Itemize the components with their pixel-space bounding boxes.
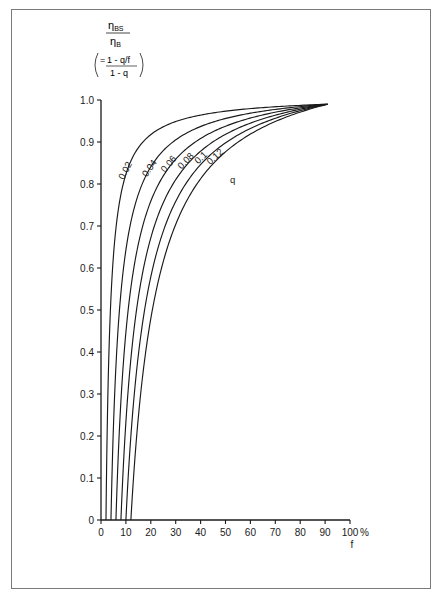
x-tick-label: 100 [342, 527, 359, 538]
y-tick-label: 0.5 [80, 305, 94, 316]
y-label-denominator: ηB [110, 35, 121, 48]
x-tick-label: 20 [145, 527, 157, 538]
x-tick-label: 70 [270, 527, 282, 538]
y-label-equals: = [100, 55, 105, 65]
y-label-numerator: ηBS [108, 19, 124, 32]
curve-label-q-0.04: 0.04 [139, 157, 159, 178]
x-tick-label: 80 [295, 527, 307, 538]
x-tick-label: 90 [320, 527, 332, 538]
x-tick-label: 30 [170, 527, 182, 538]
curve-label-q-0.12: 0.12 [204, 146, 225, 167]
y-tick-label: 0.7 [80, 221, 94, 232]
legend-q-label: q [230, 174, 235, 185]
x-tick-label: 50 [220, 527, 232, 538]
x-axis-label: f [351, 539, 354, 550]
y-tick-label: 0.8 [80, 179, 94, 190]
y-tick-label: 0.6 [80, 263, 94, 274]
curve-label-q-0.08: 0.08 [175, 150, 196, 171]
curves [106, 104, 328, 520]
y-label-formula-denominator: 1 - q [110, 68, 128, 78]
curve-q-0.02 [106, 104, 328, 520]
x-unit-label: % [360, 527, 369, 538]
y-tick-label: 0.1 [80, 473, 94, 484]
y-label-formula-numerator: 1 - q/f [107, 55, 131, 65]
x-tick-label: 0 [98, 527, 104, 538]
y-tick-label: 0.4 [80, 347, 94, 358]
x-tick-label: 60 [245, 527, 257, 538]
y-tick-label: 0.3 [80, 389, 94, 400]
left-paren [95, 53, 98, 77]
y-axis-label: ηBS ηB = 1 - q/f 1 - q [95, 19, 143, 78]
right-paren [140, 53, 143, 77]
y-tick-label: 0 [88, 515, 94, 526]
y-tick-label: 1.0 [80, 95, 94, 106]
y-tick-label: 0.2 [80, 431, 94, 442]
x-tick-label: 40 [195, 527, 207, 538]
curve-label-q-0.02: 0.02 [116, 160, 134, 181]
x-tick-label: 10 [120, 527, 132, 538]
y-tick-label: 0.9 [80, 137, 94, 148]
